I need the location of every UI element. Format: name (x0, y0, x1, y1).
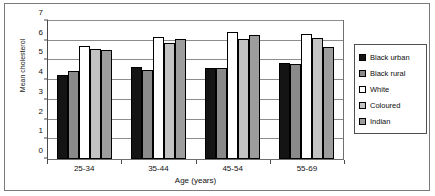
legend-label: White (370, 85, 389, 94)
legend-swatch-icon (359, 70, 366, 77)
y-tick-label: 1 (39, 126, 43, 135)
bar-groups (48, 21, 343, 159)
bar (153, 37, 164, 159)
legend-swatch-icon (359, 54, 366, 61)
x-tick-label: 45-54 (196, 164, 270, 173)
y-tick-label: 2 (39, 106, 43, 115)
bar (216, 68, 227, 159)
bar (279, 63, 290, 159)
bar (312, 38, 323, 159)
chart-figure: Mean cholesterol 01234567 25-3435-4445-5… (4, 3, 430, 191)
bar (205, 68, 216, 159)
plot-inner: 01234567 (48, 21, 343, 159)
bar (290, 64, 301, 159)
bar (79, 46, 90, 159)
x-tick-mark (344, 160, 345, 164)
legend-item: Black rural (359, 65, 423, 81)
legend-swatch-icon (359, 86, 366, 93)
bar (131, 67, 142, 159)
bar (323, 47, 334, 159)
x-tick-label: 55-69 (270, 164, 344, 173)
legend-swatch-icon (359, 118, 366, 125)
legend-item: Black urban (359, 49, 423, 65)
y-tick-label: 6 (39, 27, 43, 36)
bar (238, 39, 249, 159)
y-tick-label: 0 (39, 146, 43, 155)
legend-item: Indian (359, 113, 423, 129)
bar (101, 50, 112, 159)
bar (175, 39, 186, 159)
bar (227, 32, 238, 159)
bar (142, 70, 153, 159)
bar (68, 71, 79, 159)
chart-legend: Black urbanBlack ruralWhiteColouredIndia… (354, 44, 427, 134)
y-axis-title: Mean cholesterol (19, 11, 26, 121)
bar-group (269, 21, 343, 159)
bar (164, 43, 175, 159)
y-tick-label: 5 (39, 47, 43, 56)
x-axis-tick-labels: 25-3435-4445-5455-69 (47, 164, 344, 173)
bar-group (48, 21, 122, 159)
legend-label: Indian (370, 117, 390, 126)
x-axis-title: Age (years) (47, 176, 344, 185)
y-tick-label: 3 (39, 86, 43, 95)
legend-label: Coloured (370, 101, 400, 110)
bar-group (196, 21, 270, 159)
plot-area: 01234567 (47, 20, 344, 160)
legend-item: White (359, 81, 423, 97)
legend-item: Coloured (359, 97, 423, 113)
y-tick-label: 4 (39, 67, 43, 76)
bar (57, 75, 68, 159)
legend-label: Black rural (370, 69, 405, 78)
x-tick-label: 35-44 (121, 164, 195, 173)
bar (90, 49, 101, 159)
bar (249, 35, 260, 159)
x-tick-label: 25-34 (47, 164, 121, 173)
bar (301, 34, 312, 159)
legend-label: Black urban (370, 53, 410, 62)
legend-swatch-icon (359, 102, 366, 109)
y-tick-label: 7 (39, 8, 43, 17)
bar-group (122, 21, 196, 159)
